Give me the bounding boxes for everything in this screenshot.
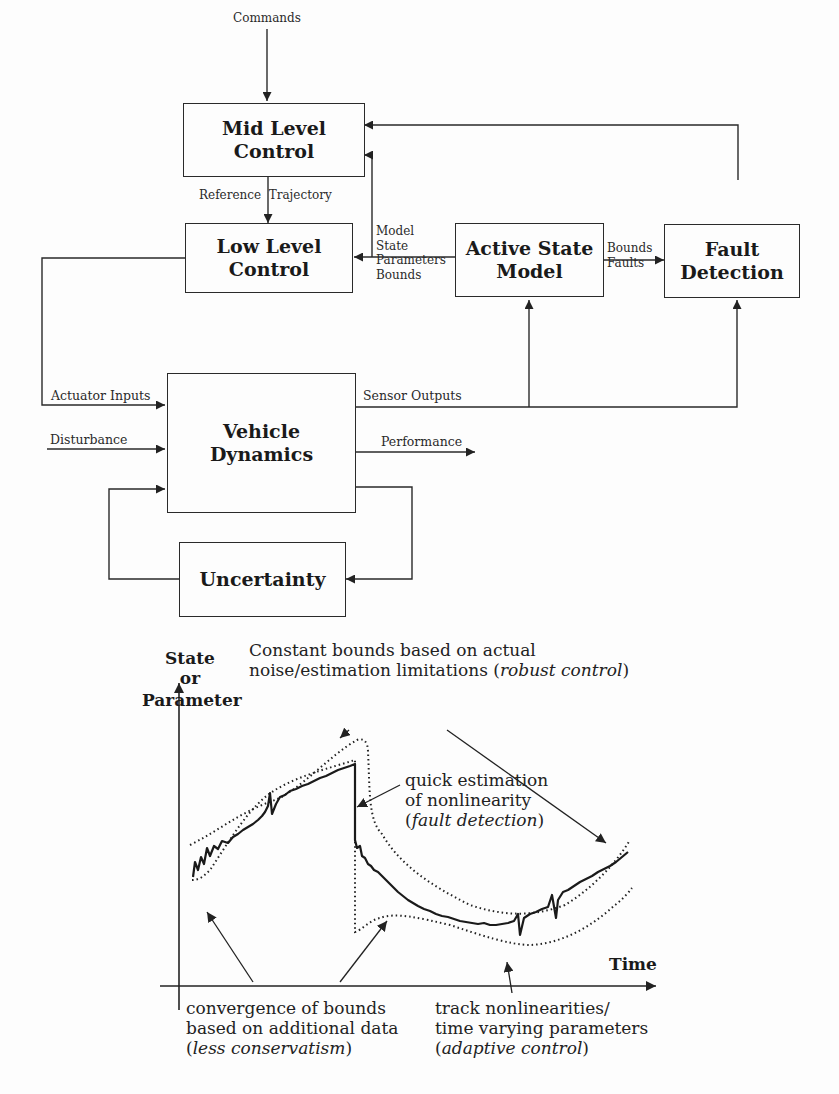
bounds-plot <box>0 0 839 1094</box>
y-axis-label-parameter: Parameter <box>142 690 242 710</box>
pointer-adaptive-arrow <box>507 962 512 993</box>
y-axis-label: State or <box>145 648 235 688</box>
annotation-robust-control: Constant bounds based on actual noise/es… <box>249 640 629 680</box>
x-axis-label: Time <box>609 954 657 974</box>
figure-page: Mid Level Control Low Level Control Acti… <box>0 0 839 1094</box>
pointer-fault-arrow <box>357 785 400 807</box>
pointer-robust-arrow <box>340 730 349 738</box>
annotation-adaptive-control: track nonlinearities/ time varying param… <box>435 998 648 1058</box>
plot-axes <box>160 683 656 1010</box>
pointer-convergence-left-arrow <box>207 912 253 982</box>
annotation-less-conservatism: convergence of bounds based on additiona… <box>186 998 398 1058</box>
pointer-convergence-right-arrow <box>340 921 387 982</box>
annotation-fault-detection: quick estimation of nonlinearity (fault … <box>405 770 548 830</box>
